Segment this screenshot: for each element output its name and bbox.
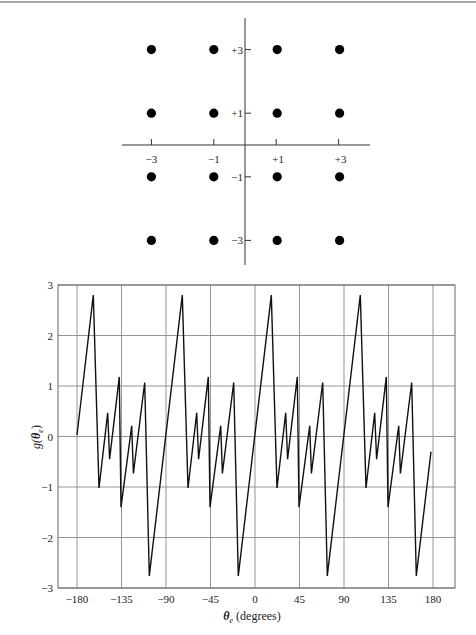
constellation-point: [273, 236, 282, 245]
constellation-point: [335, 45, 344, 54]
constellation-x-ticks: −3−1+1+3: [146, 139, 347, 165]
constellation-point: [209, 172, 218, 181]
plot-grid: [58, 285, 455, 588]
constellation-point: [147, 45, 156, 54]
constellation-point: [335, 172, 344, 181]
y-tick-label: −1: [231, 171, 243, 183]
x-tick-label: +1: [272, 153, 284, 165]
constellation-point: [209, 45, 218, 54]
x-tick-label: −180: [66, 593, 89, 605]
y-tick-label: 1: [48, 380, 54, 392]
x-tick-label: 45: [294, 593, 306, 605]
y-tick-label: −2: [41, 532, 53, 544]
y-tick-label: 2: [48, 330, 54, 342]
figure-canvas: −3−1+1+3 +3+1−1−3 −180−135−90−4504590135…: [0, 0, 476, 635]
constellation-point: [273, 109, 282, 118]
y-tick-label: −3: [231, 234, 243, 246]
x-tick-label: 180: [425, 593, 442, 605]
constellation-point: [209, 236, 218, 245]
y-tick-label: −3: [41, 582, 53, 594]
x-tick-label: −90: [157, 593, 175, 605]
constellation-point: [335, 236, 344, 245]
x-tick-label: −3: [146, 153, 158, 165]
y-tick-label: 0: [48, 431, 54, 443]
x-tick-labels: −180−135−90−4504590135180: [66, 593, 442, 605]
constellation-point: [147, 109, 156, 118]
x-tick-label: −135: [110, 593, 133, 605]
constellation-point: [147, 236, 156, 245]
y-axis-title: g(θe): [29, 425, 45, 449]
x-tick-label: 90: [339, 593, 351, 605]
constellation-point: [335, 109, 344, 118]
y-tick-label: −1: [41, 481, 53, 493]
x-tick-label: +3: [335, 153, 347, 165]
x-tick-label: 135: [380, 593, 397, 605]
constellation-point: [147, 172, 156, 181]
y-tick-label: 3: [48, 279, 54, 291]
x-axis-title: θe (degrees): [223, 609, 280, 625]
x-tick-label: −45: [202, 593, 220, 605]
series-line-g-theta: [77, 295, 431, 576]
x-tick-label: 0: [252, 593, 258, 605]
constellation-point: [273, 172, 282, 181]
constellation-point: [273, 45, 282, 54]
line-plot: −180−135−90−4504590135180 3210−1−2−3 θe …: [29, 279, 455, 625]
constellation-point: [209, 109, 218, 118]
y-tick-labels: 3210−1−2−3: [41, 279, 53, 594]
y-tick-label: +1: [231, 107, 243, 119]
y-tick-label: +3: [231, 44, 243, 56]
constellation-diagram: −3−1+1+3 +3+1−1−3: [122, 18, 370, 265]
x-tick-label: −1: [208, 153, 220, 165]
